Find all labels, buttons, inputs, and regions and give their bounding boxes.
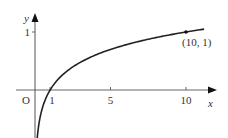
y-axis-arrow-icon	[32, 13, 39, 22]
x-axis-arrow-icon	[208, 87, 217, 94]
y-tick-label: 1	[25, 26, 31, 38]
point-label: (10, 1)	[182, 36, 212, 49]
origin-label: O	[22, 94, 30, 106]
annotated-point	[184, 30, 188, 34]
log-curve	[37, 29, 204, 138]
x-tick-label: 10	[181, 94, 193, 106]
y-axis-label: y	[23, 12, 29, 24]
x-axis-label: x	[207, 97, 213, 109]
x-tick-label: 5	[108, 94, 114, 106]
x-tick-label: 1	[49, 94, 55, 106]
log-graph: 15101 (10, 1) x y O	[0, 0, 228, 138]
ticks: 15101	[25, 26, 193, 106]
